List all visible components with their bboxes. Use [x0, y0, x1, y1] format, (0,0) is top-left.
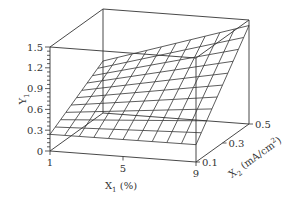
z-tick-label: 0.6	[27, 104, 43, 115]
z-axis-ticks	[45, 47, 50, 151]
box-edge	[103, 113, 249, 124]
z-axis-tick-labels: 00.30.60.91.21.5	[27, 42, 43, 157]
x-axis-label: X1 (%)	[105, 180, 137, 194]
mesh-line	[167, 33, 220, 143]
z-tick-label: 1.2	[27, 62, 43, 73]
y-tick-label: 0.5	[255, 119, 271, 130]
surface-plot: 00.30.60.91.21.5 159 0.10.30.5 Y1 X1 (%)…	[0, 0, 285, 201]
x-tick-label: 1	[47, 157, 53, 168]
box-edge	[103, 9, 249, 20]
mesh-line	[77, 85, 223, 98]
z-tick-label: 0.3	[27, 125, 43, 136]
box-edge	[50, 9, 103, 47]
z-tick-label: 1.5	[27, 42, 43, 53]
mesh-line	[98, 37, 244, 68]
mesh-line	[196, 26, 249, 145]
box-edge	[50, 113, 103, 151]
mesh-line	[103, 26, 249, 61]
z-tick-label: 0	[37, 146, 43, 157]
z-tick-label: 0.9	[27, 83, 43, 94]
mesh-line	[138, 40, 191, 141]
mesh-line	[82, 73, 228, 90]
y-tick-label: 0.3	[229, 138, 245, 149]
surface-mesh	[50, 26, 249, 145]
mesh-line	[181, 29, 234, 144]
y-tick-label: 0.1	[202, 157, 218, 168]
y-axis-tick-labels: 0.10.30.5	[202, 119, 271, 168]
mesh-line	[152, 36, 205, 141]
x-tick-label: 9	[193, 168, 199, 179]
x-tick-label: 5	[120, 163, 126, 174]
